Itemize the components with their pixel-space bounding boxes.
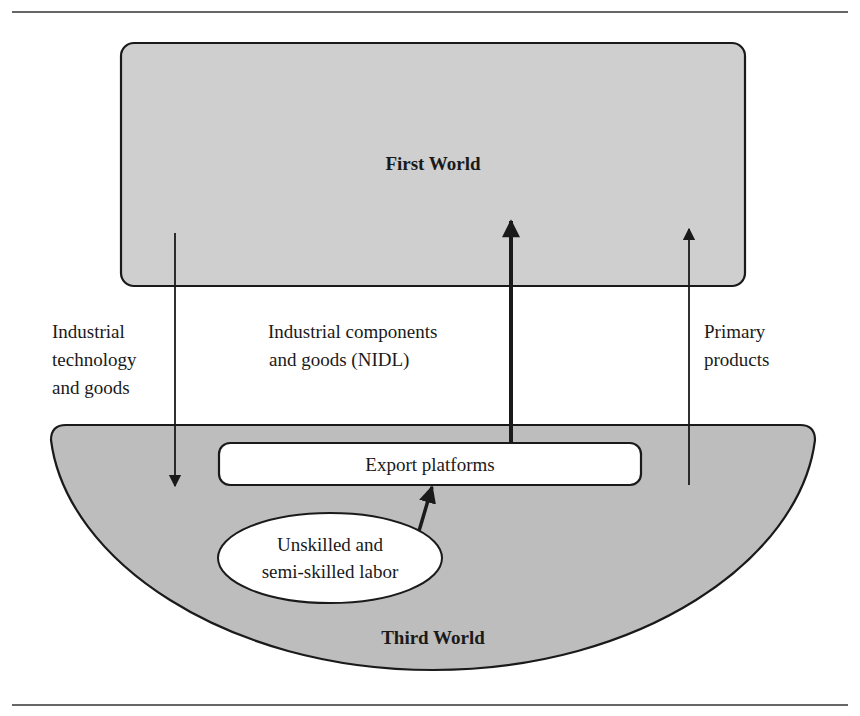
labor-ellipse xyxy=(218,513,442,603)
export-platforms-node: Export platforms xyxy=(219,443,641,485)
primary-products-line-2: products xyxy=(704,349,769,370)
industrial-technology-line-1: Industrial xyxy=(52,321,125,342)
industrial-components-line-1: Industrial components xyxy=(268,321,437,342)
labor-label-line-1: Unskilled and xyxy=(277,534,384,555)
first-world-node: First World xyxy=(121,43,745,286)
industrial-components-line-2: and goods (NIDL) xyxy=(269,349,409,371)
first-world-label: First World xyxy=(385,153,481,174)
labor-label-line-2: semi-skilled labor xyxy=(262,561,399,582)
labor-node: Unskilled and semi-skilled labor xyxy=(218,513,442,603)
diagram-canvas: First World Third World Export platforms… xyxy=(0,0,860,716)
third-world-label: Third World xyxy=(381,627,485,648)
export-platforms-label: Export platforms xyxy=(365,454,494,475)
primary-products-line-1: Primary xyxy=(704,321,766,342)
industrial-technology-label: Industrial technology and goods xyxy=(52,321,137,398)
industrial-components-label: Industrial components and goods (NIDL) xyxy=(268,321,437,371)
primary-products-label: Primary products xyxy=(704,321,769,370)
industrial-technology-line-3: and goods xyxy=(52,377,130,398)
industrial-technology-line-2: technology xyxy=(52,349,137,370)
